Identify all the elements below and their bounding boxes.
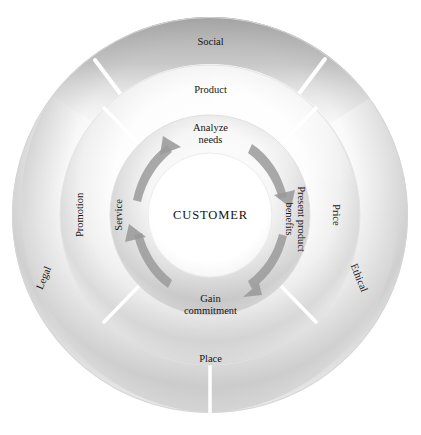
customer-wheel-diagram: Social Ethical Legal Product Price Place…: [0, 0, 421, 435]
center-hub-disc: [148, 153, 272, 277]
wheel-graphic: [0, 0, 421, 435]
center-hub-group: [148, 153, 272, 277]
